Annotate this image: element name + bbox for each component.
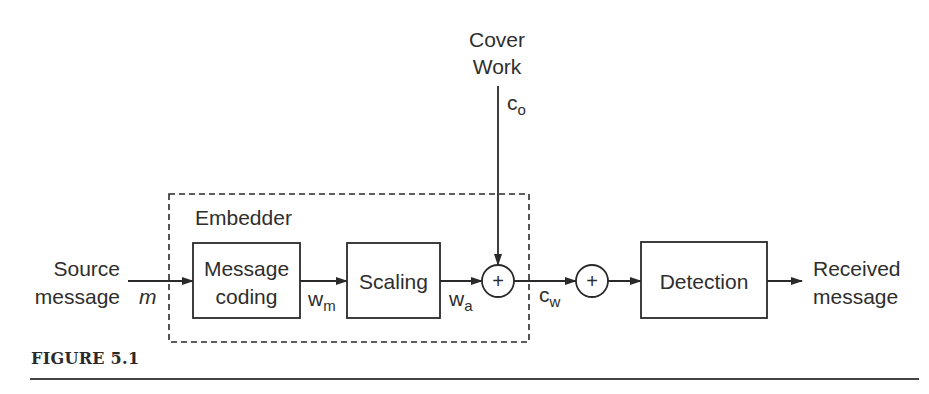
co-symbol: co [507,91,526,118]
watermarking-block-diagram: Embedder Source message m Message coding… [0,0,929,394]
received-message-label-line2: message [813,285,898,308]
source-message-label-line2: message [35,285,120,308]
caption-rule [30,378,919,380]
cover-work-label-line1: Cover [469,28,525,51]
noise-adder: + [576,265,608,297]
received-message-label-line1: Received [813,257,901,280]
source-symbol-m: m [139,285,157,308]
plus-icon: + [586,270,598,292]
plus-icon: + [492,270,504,292]
source-message-label-line1: Source [53,257,120,280]
detection-label: Detection [660,270,749,293]
wa-symbol: wa [448,287,473,314]
embedder-label: Embedder [195,206,292,229]
cover-work-label-line2: Work [473,55,522,78]
message-coding-label-line2: coding [216,285,278,308]
cw-symbol: cw [539,283,561,310]
wm-symbol: wm [307,287,336,314]
embedding-adder: + [482,265,514,297]
scaling-label: Scaling [359,270,428,293]
message-coding-label-line1: Message [204,257,289,280]
figure-caption: FIGURE 5.1 [31,349,139,368]
